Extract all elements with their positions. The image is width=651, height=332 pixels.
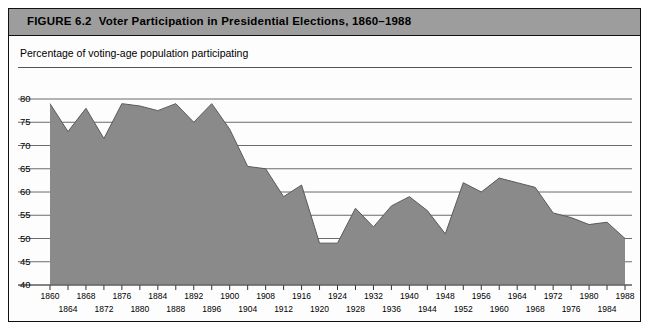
- y-axis-tick-label: 70: [20, 140, 31, 151]
- y-axis-tick-label: 60: [20, 186, 31, 197]
- x-axis-tick-label: 1968: [526, 304, 545, 314]
- x-axis-tick-label: 1976: [562, 304, 581, 314]
- x-axis-tick-label: 1892: [184, 291, 203, 301]
- x-axis-tick-label: 1880: [130, 304, 149, 314]
- chart-subtitle: Percentage of voting-age population part…: [20, 47, 248, 59]
- x-axis-tick-label: 1972: [544, 291, 563, 301]
- chart-plot-area: 807570656055504540: [18, 71, 632, 311]
- x-axis-tick-label: 1912: [274, 304, 293, 314]
- x-axis-tick-label: 1876: [112, 291, 131, 301]
- y-axis-tick-label: 75: [20, 116, 31, 127]
- y-axis-tick-label: 55: [20, 209, 31, 220]
- x-axis-tick-label: 1988: [616, 291, 635, 301]
- y-axis-tick-label: 80: [20, 93, 31, 104]
- x-axis-ticks: [50, 285, 625, 290]
- x-axis-tick-label: 1872: [94, 304, 113, 314]
- x-axis-tick-label: 1864: [59, 304, 78, 314]
- x-axis-tick-label: 1924: [328, 291, 347, 301]
- x-axis-tick-label: 1932: [364, 291, 383, 301]
- x-axis-tick-label: 1928: [346, 304, 365, 314]
- x-axis-tick-label: 1920: [310, 304, 329, 314]
- y-axis-tick-label: 45: [20, 256, 31, 267]
- x-axis-tick-label: 1936: [382, 304, 401, 314]
- x-axis-tick-label: 1984: [598, 304, 617, 314]
- y-axis-tick-label: 40: [20, 279, 31, 290]
- x-axis-tick-label: 1940: [400, 291, 419, 301]
- x-axis-tick-label: 1948: [436, 291, 455, 301]
- x-axis-tick-label: 1980: [580, 291, 599, 301]
- x-axis-tick-label: 1916: [292, 291, 311, 301]
- x-axis-tick-label: 1944: [418, 304, 437, 314]
- x-axis-tick-label: 1956: [472, 291, 491, 301]
- x-axis-tick-label: 1908: [256, 291, 275, 301]
- area-chart-svg: [18, 71, 632, 311]
- x-axis-tick-label: 1952: [454, 304, 473, 314]
- figure-number: FIGURE 6.2: [27, 15, 92, 27]
- x-axis-tick-label: 1868: [76, 291, 95, 301]
- x-axis-tick-label: 1860: [41, 291, 60, 301]
- x-axis-tick-label: 1896: [202, 304, 221, 314]
- subtitle-divider: [18, 67, 632, 68]
- figure-container: FIGURE 6.2Voter Participation in Preside…: [8, 8, 641, 322]
- x-axis-tick-label: 1884: [148, 291, 167, 301]
- x-axis-tick-label: 1900: [220, 291, 239, 301]
- figure-title-text: Voter Participation in Presidential Elec…: [99, 15, 412, 27]
- x-axis-tick-label: 1960: [490, 304, 509, 314]
- y-axis-tick-label: 65: [20, 163, 31, 174]
- x-axis-tick-label: 1888: [166, 304, 185, 314]
- figure-title: FIGURE 6.2Voter Participation in Preside…: [27, 15, 411, 27]
- y-axis-tick-label: 50: [20, 233, 31, 244]
- x-axis-tick-label: 1964: [508, 291, 527, 301]
- figure-header-band: FIGURE 6.2Voter Participation in Preside…: [9, 9, 640, 36]
- x-axis-tick-label: 1904: [238, 304, 257, 314]
- area-series-fill: [50, 104, 625, 285]
